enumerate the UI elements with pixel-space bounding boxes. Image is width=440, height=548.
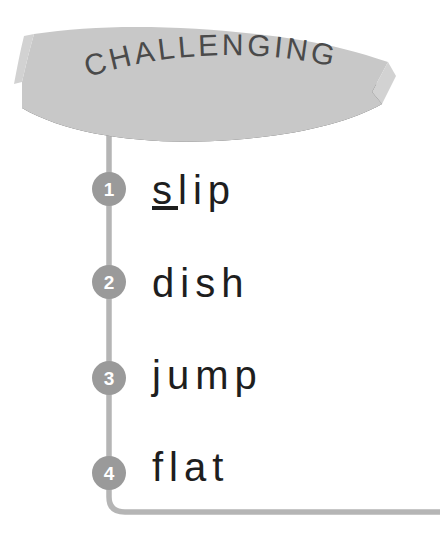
challenging-word-list-graphic: CHALLENGING 1 slip 2 dish 3 jump 4 flat [0,0,440,548]
worksheet-canvas: CHALLENGING 1 slip 2 dish 3 jump 4 flat [0,0,440,548]
timeline-marker-1-number: 1 [104,179,115,200]
word-item-1-underlined-letter: s [152,168,178,212]
word-item-3-rest: jump [151,353,263,397]
word-item-2: dish [152,261,249,305]
word-item-1: slip [152,168,236,212]
word-item-4: flat [152,445,229,489]
timeline-marker-2-number: 2 [104,272,115,293]
word-item-2-rest: dish [152,261,249,305]
timeline-marker-4-number: 4 [104,463,115,484]
timeline-marker-3-number: 3 [104,368,115,389]
word-item-4-rest: flat [152,445,229,489]
word-item-3: jump [151,353,263,397]
word-item-1-rest: lip [178,168,236,212]
